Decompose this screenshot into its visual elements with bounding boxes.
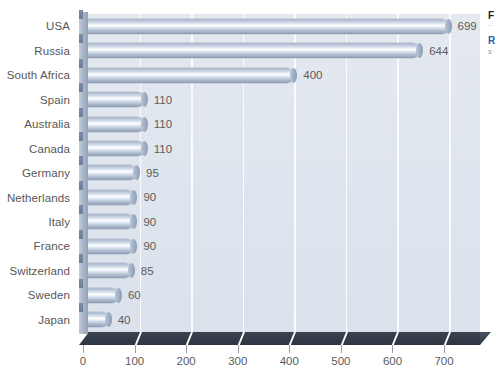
bar-origin-nub [79,181,83,190]
bar [88,19,449,34]
axis-tick [186,345,187,353]
axis-tick-label: 200 [177,355,196,367]
category-label: Germany [0,161,72,185]
axis-tick-label: 0 [80,355,86,367]
bar-row: 90 [88,234,480,258]
bar-origin-nub [79,59,83,68]
bar [88,165,137,180]
caption-subtext: s· [488,47,501,57]
category-label: Spain [0,87,72,111]
bar [88,312,109,327]
bar-chart: USARussiaSouth AfricaSpainAustraliaCanad… [0,0,501,386]
bar-value-label: 90 [143,216,156,228]
bar-row: 110 [88,112,480,136]
side-caption: F ·· R s· [488,10,501,70]
bar [88,43,420,58]
bar-value-label: 110 [154,143,172,155]
category-label: USA [0,14,72,38]
bar-value-label: 110 [154,118,172,130]
category-axis-labels: USARussiaSouth AfricaSpainAustraliaCanad… [0,14,72,332]
caption-heading: R [488,35,501,47]
category-label: Japan [0,308,72,332]
bar-value-label: 95 [146,167,159,179]
bar-value-label: 644 [429,45,448,57]
bar-value-label: 110 [154,94,172,106]
category-label: France [0,234,72,258]
bar-origin-nub [79,10,83,19]
category-label: Netherlands [0,185,72,209]
bar-origin-nub [79,279,83,288]
axis-tick-label: 500 [331,355,350,367]
bar-origin-nub [79,254,83,263]
bar-row: 90 [88,185,480,209]
category-label: Sweden [0,283,72,307]
axis-tick [341,345,342,353]
axis-tick-label: 100 [125,355,144,367]
bar [88,288,119,303]
bar-value-label: 90 [143,240,156,252]
category-label: Italy [0,210,72,234]
bar [88,117,145,132]
axis-tick-label: 300 [228,355,247,367]
axis-tick-label: 400 [280,355,299,367]
value-axis: 0100200300400500600700 [79,345,499,386]
caption-title: F [488,10,501,21]
bar-value-label: 40 [118,314,131,326]
bar [88,239,134,254]
axis-tick [289,345,290,353]
axis-tick [444,345,445,353]
axis-tick [135,345,136,353]
bar [88,68,294,83]
bar [88,214,134,229]
bar-row: 85 [88,259,480,283]
bar-row: 40 [88,308,480,332]
category-label: Switzerland [0,259,72,283]
bar-row: 644 [88,38,480,62]
category-label: Australia [0,112,72,136]
category-label: South Africa [0,63,72,87]
bar-row: 699 [88,14,480,38]
bar-series: 69964440011011011095909090856040 [88,14,480,332]
bar-origin-nub [79,230,83,239]
bar-value-label: 60 [128,289,141,301]
category-label: Russia [0,38,72,62]
bar-row: 60 [88,283,480,307]
bar-origin-nub [79,156,83,165]
bar-origin-nub [79,83,83,92]
bar-origin-nub [79,205,83,214]
axis-tick [83,345,84,353]
bar-row: 90 [88,210,480,234]
bar-origin-nub [79,108,83,117]
bar-row: 110 [88,136,480,160]
caption-subtitle: ·· [488,21,501,31]
bar-row: 110 [88,87,480,111]
bar-value-label: 85 [141,265,154,277]
bar-origin-nub [79,132,83,141]
bar-row: 400 [88,63,480,87]
axis-tick [392,345,393,353]
axis-tick-label: 600 [383,355,402,367]
bar-value-label: 90 [143,191,156,203]
bar [88,141,145,156]
axis-tick-label: 700 [434,355,453,367]
bar [88,92,145,107]
bar [88,263,132,278]
bar-origin-nub [79,303,83,312]
floor-face [88,332,480,345]
bar-row: 95 [88,161,480,185]
bar [88,190,134,205]
bar-value-label: 400 [303,69,322,81]
axis-tick [238,345,239,353]
bar-value-label: 699 [458,20,477,32]
category-label: Canada [0,136,72,160]
floor-right-bevel [480,332,491,345]
bar-origin-nub [79,34,83,43]
